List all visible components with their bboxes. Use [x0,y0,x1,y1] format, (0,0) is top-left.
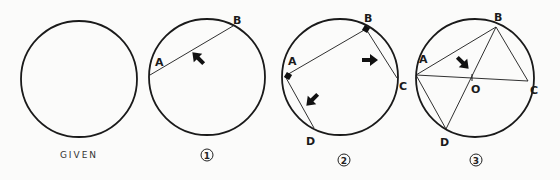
label-c: C [530,84,538,97]
label-b: B [233,14,241,27]
arrow-right-icon [362,54,378,66]
label-a: A [419,53,428,66]
chord-bc [496,27,528,81]
construction-diagram: GIVEN A B 1 A B C D 2 [0,0,560,180]
panel-given: GIVEN [21,21,137,160]
right-angle-marker-a [284,72,292,80]
label-c: C [399,80,407,93]
label-a: A [288,55,297,68]
step-number-2: 2 [341,156,347,166]
caption-given: GIVEN [60,150,98,160]
label-o: O [471,83,480,96]
label-b: B [364,12,372,25]
label-a: A [155,56,164,69]
step-number-1: 1 [204,151,210,161]
panel-step-2: A B C D 2 [282,12,407,166]
panel-step-1: A B 1 [149,14,265,161]
arrow-down-right-icon [453,53,473,73]
step-number-3: 3 [473,156,479,166]
panel-step-3: A B C D O 3 [416,11,538,166]
label-b: B [494,11,502,24]
step1-circle [149,19,265,135]
chord-ab [285,29,366,76]
given-circle [21,21,137,137]
step2-circle [282,19,398,135]
label-d: D [306,135,315,148]
arrow-down-left-icon [302,90,322,110]
label-d: D [440,136,449,149]
